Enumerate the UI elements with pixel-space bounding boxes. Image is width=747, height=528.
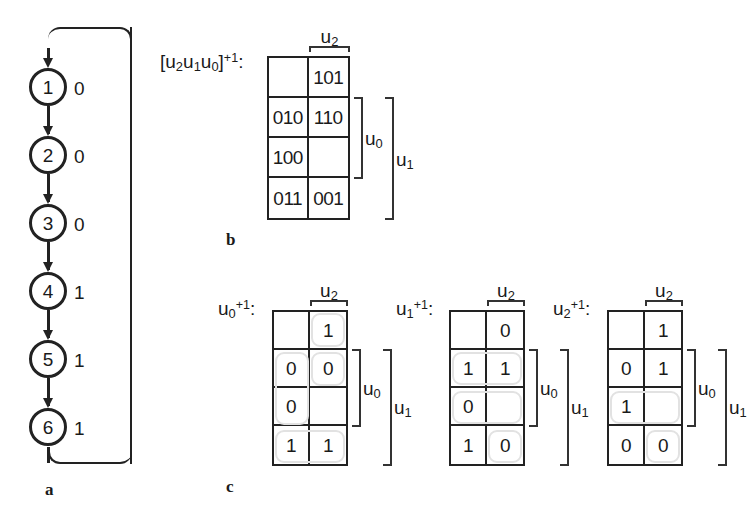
kmap-c1-cell-r1c0[interactable]: 1	[451, 350, 487, 388]
kmap-c2-cell-r2c1[interactable]	[645, 388, 681, 426]
kmap-c0-cell-r3c1[interactable]: 1	[310, 426, 346, 464]
side-variable-sub: 1	[582, 405, 589, 420]
kmap-c0-side-bracket-u0	[352, 349, 361, 427]
kmap-b-cell-r0c1[interactable]: 101	[309, 58, 349, 98]
kmap-c1-cell-r3c0[interactable]: 1	[451, 426, 487, 464]
side-variable-name: u	[396, 149, 407, 170]
transition-arrowhead-1-2	[43, 126, 53, 136]
kmap-b-label-sub2: 2	[176, 59, 183, 74]
top-bracket-tick-right	[523, 300, 525, 306]
state-node-1[interactable]: 1	[29, 68, 67, 106]
label-name: u	[218, 298, 229, 319]
state-node-3[interactable]: 3	[29, 204, 67, 242]
top-variable-name: u	[497, 280, 508, 301]
kmap-b-label-sub1: 1	[194, 59, 201, 74]
kmap-c0-cell-r1c0[interactable]: 0	[274, 350, 310, 388]
kmap-c1-cell-r2c0[interactable]: 0	[451, 388, 487, 426]
kmap-c1-side-bracket-u1	[560, 349, 569, 466]
state-node-2[interactable]: 2	[29, 136, 67, 174]
side-variable-sub: 1	[407, 157, 414, 172]
kmap-c2-cell-r3c1[interactable]: 0	[645, 426, 681, 464]
kmap-c0-cell-r1c1[interactable]: 0	[310, 350, 346, 388]
kmap-c1-cell-r0c1[interactable]: 0	[487, 312, 523, 350]
kmap-c2-cell-r0c0[interactable]	[609, 312, 645, 350]
side-variable-name: u	[540, 378, 551, 399]
kmap-b-cell-r1c1[interactable]: 110	[309, 98, 349, 138]
kmap-c2-grid: 1 0 1 1 0 0	[607, 310, 683, 466]
feedback-arrowhead	[43, 58, 53, 68]
label-sub: 1	[407, 306, 414, 321]
kmap-c2-cell-r1c0[interactable]: 0	[609, 350, 645, 388]
kmap-b-cell-r1c0[interactable]: 010	[269, 98, 309, 138]
top-variable-name: u	[320, 280, 331, 301]
kmap-c2-cell-r0c1[interactable]: 1	[645, 312, 681, 350]
state-output-2: 0	[74, 147, 85, 166]
kmap-b-side-label-u0: u0	[365, 129, 383, 151]
state-output-6: 1	[74, 419, 85, 438]
top-variable-sub: 2	[331, 288, 338, 303]
panel-caption-a: a	[45, 481, 54, 498]
kmap-c2-side-bracket-u0	[687, 349, 696, 427]
top-bracket-tick-left	[487, 300, 489, 306]
side-variable-name: u	[571, 397, 582, 418]
top-bracket-tick-left	[310, 300, 312, 306]
kmap-c2-function-label: u2+1:	[553, 299, 590, 321]
kmap-c0-cell-r2c1[interactable]	[310, 388, 346, 426]
state-output-5: 1	[74, 351, 85, 370]
kmap-c2-cell-r1c1[interactable]: 1	[645, 350, 681, 388]
kmap-b-label-u1: u	[183, 51, 194, 72]
top-bracket-tick-right	[348, 46, 350, 52]
transition-arrowhead-5-6	[43, 398, 53, 408]
kmap-c2-cell-r2c0[interactable]: 1	[609, 388, 645, 426]
side-variable-name: u	[394, 397, 405, 418]
kmap-b-cell-r0c0[interactable]	[269, 58, 309, 98]
side-variable-sub: 0	[709, 386, 716, 401]
label-name: u	[553, 298, 564, 319]
label-colon: :	[585, 298, 590, 319]
kmap-b-cell-r2c1[interactable]	[309, 138, 349, 178]
state-node-label: 6	[43, 418, 54, 437]
kmap-b-cell-r3c0[interactable]: 011	[269, 178, 309, 218]
kmap-c0-cell-r0c1[interactable]: 1	[310, 312, 346, 350]
state-node-label: 5	[43, 350, 54, 369]
top-variable-name: u	[321, 26, 332, 47]
label-colon: :	[250, 298, 255, 319]
kmap-c0-cell-r0c0[interactable]	[274, 312, 310, 350]
kmap-c2-side-label-u0: u0	[698, 379, 716, 401]
side-variable-name: u	[729, 397, 740, 418]
kmap-c2-cell-r3c0[interactable]: 0	[609, 426, 645, 464]
transition-arrowhead-3-4	[43, 262, 53, 272]
label-sup: +1	[236, 298, 250, 312]
kmap-c0-cell-r2c0[interactable]: 0	[274, 388, 310, 426]
kmap-b-function-label: [u2u1u0]+1:	[160, 52, 243, 74]
label-sup: +1	[414, 298, 428, 312]
kmap-c1-side-label-u1: u1	[571, 398, 589, 420]
label-sub: 2	[564, 306, 571, 321]
state-output-4: 1	[74, 283, 85, 302]
state-node-5[interactable]: 5	[29, 340, 67, 378]
kmap-c2-side-label-u1: u1	[729, 398, 747, 420]
top-variable-sub: 2	[331, 34, 338, 49]
transition-arrowhead-2-3	[43, 194, 53, 204]
kmap-b-side-bracket-u1	[385, 97, 394, 220]
side-variable-sub: 1	[405, 405, 412, 420]
kmap-b-side-label-u1: u1	[396, 150, 414, 172]
state-node-4[interactable]: 4	[29, 272, 67, 310]
transition-arrowhead-4-5	[43, 330, 53, 340]
kmap-c1-cell-r2c1[interactable]	[487, 388, 523, 426]
kmap-c0-cell-r3c0[interactable]: 1	[274, 426, 310, 464]
kmap-c1-cell-r3c1[interactable]: 0	[487, 426, 523, 464]
kmap-b-cell-r2c0[interactable]: 100	[269, 138, 309, 178]
top-variable-sub: 2	[508, 288, 515, 303]
kmap-c1-cell-r1c1[interactable]: 1	[487, 350, 523, 388]
kmap-c1-grid: 0 1 1 0 1 0	[449, 310, 525, 466]
state-node-6[interactable]: 6	[29, 408, 67, 446]
top-bracket-tick-left	[645, 300, 647, 306]
kmap-b-label-sub0: 0	[211, 59, 218, 74]
kmap-c0-side-label-u0: u0	[363, 379, 381, 401]
kmap-b-cell-r3c1[interactable]: 001	[309, 178, 349, 218]
kmap-c1-cell-r0c0[interactable]	[451, 312, 487, 350]
state-node-label: 2	[43, 146, 54, 165]
label-name: u	[396, 298, 407, 319]
kmap-b-label-colon: :	[238, 51, 243, 72]
